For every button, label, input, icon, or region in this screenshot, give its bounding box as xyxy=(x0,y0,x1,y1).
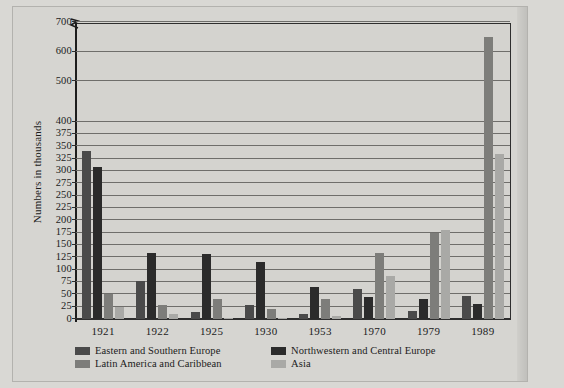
bar xyxy=(213,299,222,319)
x-tick-label: 1921 xyxy=(76,325,130,337)
legend-item: Latin America and Caribbean xyxy=(75,358,261,369)
bar xyxy=(115,307,124,319)
bar xyxy=(375,253,384,319)
bar xyxy=(419,299,428,319)
plot-area: 0255075100125150175200225250275300325350… xyxy=(75,23,511,320)
chart-legend: Eastern and Southern EuropeNorthwestern … xyxy=(75,345,475,369)
bar xyxy=(353,289,362,319)
bar xyxy=(82,151,91,319)
bar xyxy=(93,167,102,319)
y-tick-label: 250 xyxy=(56,190,72,201)
bar xyxy=(256,262,265,319)
bar-group: 1922 xyxy=(130,24,184,319)
page-edge-shading xyxy=(517,7,527,381)
bar xyxy=(473,304,482,319)
y-tick-label: 700 xyxy=(56,17,72,28)
chart-figure: Numbers in thousands 0255075100125150175… xyxy=(12,6,528,382)
y-tick-label: 225 xyxy=(56,203,72,214)
legend-swatch xyxy=(271,360,286,368)
legend-label: Asia xyxy=(291,358,311,369)
bar xyxy=(441,230,450,319)
legend-item: Eastern and Southern Europe xyxy=(75,345,261,356)
bar xyxy=(245,305,254,319)
y-tick-label: 50 xyxy=(61,289,72,300)
bar-group: 1921 xyxy=(76,24,130,319)
bar xyxy=(147,253,156,319)
bar xyxy=(104,294,113,319)
legend-label: Eastern and Southern Europe xyxy=(95,345,220,356)
y-tick-label: 125 xyxy=(56,252,72,263)
bar xyxy=(495,154,504,319)
legend-item: Asia xyxy=(271,358,475,369)
y-tick-label: 275 xyxy=(56,178,72,189)
y-tick-label: 150 xyxy=(56,240,72,251)
y-axis-title-text: Numbers in thousands xyxy=(31,120,43,222)
x-tick-label: 1970 xyxy=(347,325,401,337)
y-tick-label: 400 xyxy=(56,116,72,127)
y-tick-label: 175 xyxy=(56,227,72,238)
bar xyxy=(310,287,319,319)
bar xyxy=(169,314,178,319)
legend-item: Northwestern and Central Europe xyxy=(271,345,475,356)
bar xyxy=(191,312,200,319)
y-axis-title: Numbers in thousands xyxy=(29,23,45,320)
y-tick-label: 325 xyxy=(56,153,72,164)
y-tick-label: 600 xyxy=(56,46,72,57)
legend-label: Northwestern and Central Europe xyxy=(291,345,436,356)
bar-group: 1970 xyxy=(347,24,401,319)
bar-group: 1953 xyxy=(293,24,347,319)
gridline xyxy=(76,21,510,22)
x-tick-label: 1922 xyxy=(130,325,184,337)
y-tick-label: 75 xyxy=(61,277,72,288)
bar-group: 1979 xyxy=(402,24,456,319)
y-tick-label: 375 xyxy=(56,129,72,140)
bar xyxy=(332,316,341,319)
legend-swatch xyxy=(75,347,90,355)
bar xyxy=(321,299,330,319)
x-tick-label: 1989 xyxy=(456,325,510,337)
y-tick-label: 500 xyxy=(56,76,72,87)
bar-group: 1989 xyxy=(456,24,510,319)
bar xyxy=(202,254,211,319)
legend-swatch xyxy=(271,347,286,355)
y-tick-label: 300 xyxy=(56,166,72,177)
bar-group: 1925 xyxy=(185,24,239,319)
bar xyxy=(430,233,439,319)
x-tick-label: 1953 xyxy=(293,325,347,337)
bar xyxy=(267,309,276,319)
y-tick-mark xyxy=(72,21,76,22)
bar xyxy=(278,318,287,319)
legend-label: Latin America and Caribbean xyxy=(95,358,222,369)
bar xyxy=(136,281,145,319)
y-tick-label: 25 xyxy=(61,301,72,312)
bar-groups: 19211922192519301953197019791989 xyxy=(76,24,510,319)
bar xyxy=(364,297,373,319)
bar xyxy=(158,305,167,319)
x-tick-label: 1979 xyxy=(402,325,456,337)
x-tick-label: 1930 xyxy=(239,325,293,337)
bar xyxy=(299,314,308,319)
y-tick-label: 200 xyxy=(56,215,72,226)
y-tick-label: 100 xyxy=(56,264,72,275)
bar xyxy=(224,318,233,319)
y-tick-label: 350 xyxy=(56,141,72,152)
legend-swatch xyxy=(75,360,90,368)
y-tick-label: 0 xyxy=(67,314,72,325)
bar xyxy=(462,296,471,319)
bar xyxy=(408,311,417,319)
x-tick-label: 1925 xyxy=(185,325,239,337)
bar xyxy=(484,37,493,319)
bar xyxy=(386,276,395,319)
bar-group: 1930 xyxy=(239,24,293,319)
